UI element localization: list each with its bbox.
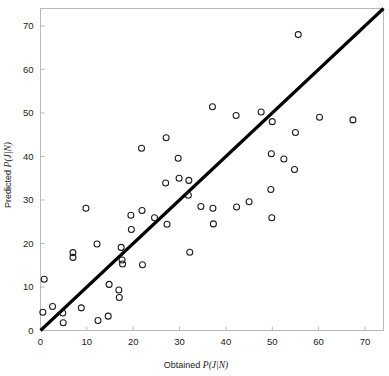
x-axis-title: Obtained P(J|N) xyxy=(164,360,228,371)
data-point xyxy=(94,241,100,247)
data-point xyxy=(268,187,274,193)
data-point xyxy=(269,119,275,125)
data-point xyxy=(50,304,56,310)
data-point xyxy=(95,317,101,323)
data-point xyxy=(268,151,274,157)
data-point xyxy=(105,313,111,319)
data-point xyxy=(292,167,298,173)
data-point xyxy=(152,215,158,221)
y-tick-label: 10 xyxy=(23,281,34,292)
data-point xyxy=(186,177,192,183)
plot-canvas: 010203040506070 010203040506070 Obtained… xyxy=(0,0,389,376)
x-tick-label: 20 xyxy=(128,336,139,347)
data-point xyxy=(350,117,356,123)
data-point xyxy=(164,221,170,227)
data-point xyxy=(210,221,216,227)
x-tick-label: 70 xyxy=(360,336,371,347)
data-point xyxy=(128,212,134,218)
data-point xyxy=(258,109,264,115)
data-point xyxy=(83,205,89,211)
x-axis-ticks xyxy=(41,327,365,331)
data-point xyxy=(116,294,122,300)
data-point xyxy=(60,320,66,326)
data-point xyxy=(210,205,216,211)
data-point xyxy=(118,244,124,250)
data-point xyxy=(116,287,122,293)
identity-line xyxy=(41,9,384,331)
x-tick-label: 40 xyxy=(221,336,232,347)
data-point xyxy=(139,145,145,151)
data-point xyxy=(120,261,126,267)
y-tick-label: 50 xyxy=(23,107,34,118)
y-tick-label: 40 xyxy=(23,151,34,162)
y-axis-tick-labels: 010203040506070 xyxy=(23,20,34,336)
x-tick-label: 50 xyxy=(267,336,278,347)
data-point xyxy=(78,305,84,311)
x-tick-label: 0 xyxy=(38,336,43,347)
data-point xyxy=(139,262,145,268)
data-point xyxy=(187,249,193,255)
data-point xyxy=(176,175,182,181)
x-tick-label: 30 xyxy=(174,336,185,347)
data-point xyxy=(295,32,301,38)
data-point xyxy=(281,156,287,162)
y-tick-label: 20 xyxy=(23,238,34,249)
x-axis-tick-labels: 010203040506070 xyxy=(38,336,370,347)
data-point-series xyxy=(40,32,356,326)
data-point xyxy=(163,180,169,186)
data-point xyxy=(106,281,112,287)
y-tick-label: 0 xyxy=(28,325,33,336)
data-point xyxy=(139,207,145,213)
y-tick-label: 60 xyxy=(23,64,34,75)
data-point xyxy=(246,199,252,205)
data-point xyxy=(209,104,215,110)
y-tick-label: 30 xyxy=(23,194,34,205)
data-point xyxy=(163,135,169,141)
x-tick-label: 10 xyxy=(82,336,93,347)
scatter-plot-figure: 010203040506070 010203040506070 Obtained… xyxy=(0,0,389,376)
data-point xyxy=(41,276,47,282)
data-point xyxy=(317,114,323,120)
identity-reference-line xyxy=(41,9,384,331)
data-point xyxy=(234,204,240,210)
y-tick-label: 70 xyxy=(23,20,34,31)
data-point xyxy=(175,155,181,161)
data-point xyxy=(128,227,134,233)
data-point xyxy=(233,113,239,119)
data-point xyxy=(269,215,275,221)
data-point xyxy=(198,203,204,209)
y-axis-ticks xyxy=(41,26,45,331)
data-point xyxy=(292,130,298,136)
y-axis-title: Predicted P(J|N) xyxy=(3,142,14,208)
x-tick-label: 60 xyxy=(313,336,324,347)
